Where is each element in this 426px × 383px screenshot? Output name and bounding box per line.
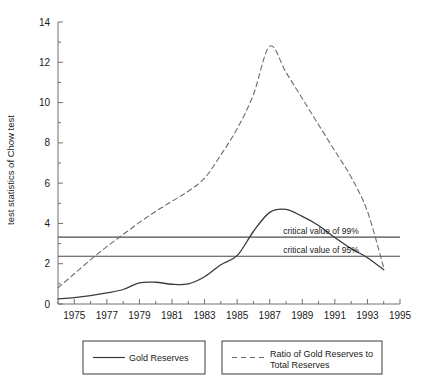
- y-tick-label: 4: [44, 218, 50, 229]
- y-tick-label: 14: [39, 17, 51, 28]
- x-tick-label: 1995: [389, 310, 412, 321]
- x-tick-label: 1989: [291, 310, 314, 321]
- y-tick-label: 8: [44, 137, 50, 148]
- y-tick-label: 2: [44, 258, 50, 269]
- y-tick-label: 0: [44, 299, 50, 310]
- chart-canvas: 0246810121419751977197919811983198519871…: [0, 0, 426, 383]
- legend-label: Ratio of Gold Reserves to: [270, 349, 373, 359]
- legend-label: Gold Reserves: [129, 353, 189, 363]
- axes-group: [58, 22, 400, 304]
- reference-line-annotations: critical value of 99%critical value of 9…: [283, 226, 359, 255]
- y-tick-label: 6: [44, 178, 50, 189]
- critical-value-annotation: critical value of 95%: [283, 245, 359, 255]
- y-tick-label: 12: [39, 57, 51, 68]
- x-tick-label: 1993: [356, 310, 379, 321]
- x-tick-label: 1985: [226, 310, 249, 321]
- x-tick-label: 1977: [96, 310, 119, 321]
- chow-test-chart-figure: 0246810121419751977197919811983198519871…: [0, 0, 426, 383]
- x-tick-label: 1981: [161, 310, 184, 321]
- x-tick-label: 1983: [193, 310, 216, 321]
- chart-legend: Gold ReservesRatio of Gold Reserves toTo…: [83, 341, 382, 374]
- x-tick-label: 1979: [128, 310, 151, 321]
- tick-labels-group: 0246810121419751977197919811983198519871…: [39, 17, 412, 322]
- critical-value-annotation: critical value of 99%: [283, 226, 359, 236]
- y-axis-title: test statistics of Chow test: [5, 115, 16, 225]
- data-series-group: [58, 46, 384, 299]
- x-tick-label: 1987: [259, 310, 282, 321]
- legend-label: Total Reserves: [270, 360, 330, 370]
- x-tick-label: 1991: [324, 310, 347, 321]
- x-tick-label: 1975: [63, 310, 86, 321]
- y-tick-label: 10: [39, 97, 51, 108]
